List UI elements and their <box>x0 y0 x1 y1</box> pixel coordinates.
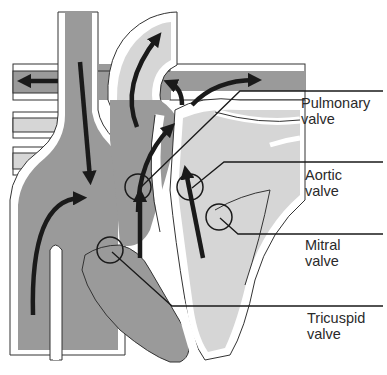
label-pulmonary-valve: Pulmonary valve <box>301 95 370 127</box>
heart-diagram: Pulmonary valve Aortic valve Mitral valv… <box>0 0 387 375</box>
left-heart <box>170 99 305 360</box>
label-tricuspid-valve: Tricuspid valve <box>307 310 365 342</box>
label-aortic-valve: Aortic valve <box>305 167 342 199</box>
label-mitral-valve: Mitral valve <box>305 237 340 269</box>
